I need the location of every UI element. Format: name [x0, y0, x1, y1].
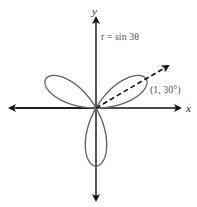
x-axis-label: x [185, 102, 191, 114]
point-label: (1, 30°) [150, 84, 181, 96]
rose-curve-diagram: y x r = sin 3θ (1, 30°) [0, 0, 197, 207]
equation-label: r = sin 3θ [101, 31, 139, 42]
y-axis-label: y [91, 5, 97, 17]
